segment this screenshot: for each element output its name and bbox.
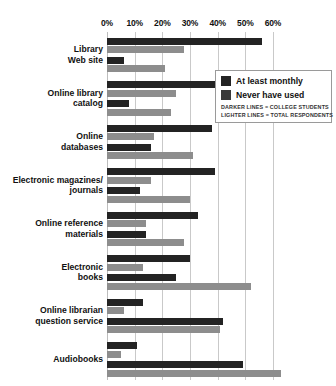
- bar-group: [107, 125, 273, 160]
- bar: [107, 239, 184, 246]
- bar: [107, 299, 143, 306]
- legend-label-never-have-used: Never have used: [236, 90, 304, 100]
- x-tick-label: 10%: [126, 18, 142, 28]
- bar: [107, 342, 137, 349]
- legend-note-darker: DARKER LINES = COLLEGE STUDENTS: [221, 104, 326, 110]
- category-label: Online referencematerials: [0, 218, 103, 239]
- bar-group: [107, 255, 273, 290]
- bar-group: [107, 168, 273, 203]
- category-label: Electronic magazines/journals: [0, 175, 103, 196]
- legend-note-lighter: LIGHTER LINES = TOTAL RESPONDENTS: [221, 112, 326, 118]
- bar: [107, 283, 251, 290]
- bar: [107, 212, 198, 219]
- bar: [107, 90, 176, 97]
- category-label: Online librarianquestion service: [0, 305, 103, 326]
- category-label-line: Online librarian: [0, 305, 103, 316]
- category-label-line: Electronic magazines/: [0, 175, 103, 186]
- category-label-line: books: [0, 272, 103, 283]
- legend-item-at-least-monthly: At least monthly: [221, 76, 326, 86]
- bar: [107, 351, 121, 358]
- bar-group: [107, 212, 273, 247]
- bar: [107, 65, 165, 72]
- category-label-line: Audiobooks: [0, 354, 103, 365]
- category-label: Electronicbooks: [0, 262, 103, 283]
- bar: [107, 187, 140, 194]
- x-tick-label: 60%: [265, 18, 281, 28]
- x-axis-tick-labels: 0%10%20%30%40%50%60%: [107, 18, 273, 30]
- bar: [107, 38, 262, 45]
- category-label-line: journals: [0, 185, 103, 196]
- x-tick-label: 30%: [182, 18, 198, 28]
- x-tick-label: 0%: [101, 18, 113, 28]
- category-label-line: materials: [0, 229, 103, 240]
- category-label-line: Online reference: [0, 218, 103, 229]
- bar: [107, 307, 124, 314]
- bar: [107, 318, 223, 325]
- category-label-line: Online library: [0, 88, 103, 99]
- bar-group: [107, 299, 273, 334]
- bar: [107, 177, 151, 184]
- legend-swatch-never-have-used: [221, 90, 231, 100]
- bar: [107, 144, 151, 151]
- bar: [107, 220, 146, 227]
- bar: [107, 231, 146, 238]
- bar-group: [107, 38, 273, 73]
- bar: [107, 152, 193, 159]
- bar: [107, 326, 220, 333]
- chart-legend: At least monthly Never have used DARKER …: [215, 70, 332, 123]
- y-axis-category-labels: LibraryWeb siteOnline librarycatalogOnli…: [0, 32, 103, 380]
- category-label-line: question service: [0, 316, 103, 327]
- bar: [107, 125, 212, 132]
- bar: [107, 370, 281, 377]
- legend-item-never-have-used: Never have used: [221, 90, 326, 100]
- legend-swatch-at-least-monthly: [221, 76, 231, 86]
- bar: [107, 361, 243, 368]
- category-label-line: catalog: [0, 98, 103, 109]
- x-tick-label: 40%: [209, 18, 225, 28]
- bar: [107, 46, 184, 53]
- bar-chart: 0%10%20%30%40%50%60% LibraryWeb siteOnli…: [0, 0, 336, 386]
- bar: [107, 196, 190, 203]
- bar: [107, 274, 176, 281]
- category-label-line: Electronic: [0, 262, 103, 273]
- category-label: LibraryWeb site: [0, 44, 103, 65]
- category-label: Audiobooks: [0, 354, 103, 365]
- category-label-line: databases: [0, 142, 103, 153]
- x-tick-label: 50%: [237, 18, 253, 28]
- category-label-line: Library: [0, 44, 103, 55]
- bar-group: [107, 342, 273, 377]
- x-tick-label: 20%: [154, 18, 170, 28]
- bar: [107, 57, 124, 64]
- category-label: Onlinedatabases: [0, 131, 103, 152]
- bar: [107, 100, 129, 107]
- bar: [107, 264, 143, 271]
- bar: [107, 168, 215, 175]
- legend-label-at-least-monthly: At least monthly: [236, 76, 303, 86]
- category-label-line: Web site: [0, 55, 103, 66]
- bar: [107, 133, 154, 140]
- category-label-line: Online: [0, 131, 103, 142]
- category-label: Online librarycatalog: [0, 88, 103, 109]
- bar: [107, 109, 171, 116]
- bar: [107, 255, 190, 262]
